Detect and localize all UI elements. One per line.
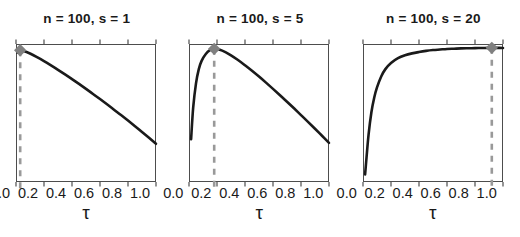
plot-frame (190, 45, 329, 182)
panel-title: n = 100, s = 5 (173, 11, 346, 26)
x-tick-label: 1.0 (477, 185, 497, 201)
x-tick-label: 0.8 (102, 185, 122, 201)
plot-frame (363, 45, 502, 182)
chart-panel: n = 100, s = 1 0.00.20.40.60.81.0 τ (0, 0, 173, 237)
plot-svg (189, 44, 329, 182)
x-tick-label: 0.0 (0, 185, 10, 201)
x-tick-label: 0.0 (163, 185, 183, 201)
plot-area (363, 44, 503, 182)
x-tick-label: 1.0 (303, 185, 323, 201)
x-tick-label: 0.6 (247, 185, 267, 201)
x-axis-label: τ (0, 203, 172, 222)
x-tick-labels: 0.00.20.40.60.81.0 (163, 185, 323, 205)
x-tick-label: 0.4 (393, 185, 413, 201)
x-axis-label: τ (347, 203, 519, 222)
data-curve (365, 48, 503, 175)
chart-panel: n = 100, s = 5 0.00.20.40.60.81.0 τ (173, 0, 346, 237)
x-tick-label: 0.4 (46, 185, 66, 201)
plot-frame (17, 45, 156, 182)
panel-title: n = 100, s = 20 (347, 11, 520, 26)
data-curve (191, 49, 329, 143)
x-tick-label: 0.0 (337, 185, 357, 201)
plot-area (16, 44, 156, 182)
x-tick-label: 0.2 (365, 185, 385, 201)
x-tick-labels: 0.00.20.40.60.81.0 (0, 185, 150, 205)
x-tick-label: 0.4 (219, 185, 239, 201)
panel-title: n = 100, s = 1 (0, 11, 173, 26)
x-tick-label: 1.0 (130, 185, 150, 201)
x-tick-label: 0.6 (421, 185, 441, 201)
plot-svg (363, 44, 503, 182)
x-tick-label: 0.2 (18, 185, 38, 201)
figure-panel-grid: n = 100, s = 1 0.00.20.40.60.81.0 τ n = … (0, 0, 520, 237)
x-tick-label: 0.8 (449, 185, 469, 201)
x-tick-label: 0.2 (191, 185, 211, 201)
data-curve (17, 50, 156, 144)
x-tick-label: 0.8 (275, 185, 295, 201)
x-axis-label: τ (173, 203, 345, 222)
x-tick-labels: 0.00.20.40.60.81.0 (337, 185, 497, 205)
chart-panel: n = 100, s = 20 0.00.20.40.60.81.0 τ (347, 0, 520, 237)
optimum-marker (485, 42, 497, 54)
plot-svg (16, 44, 156, 182)
plot-area (189, 44, 329, 182)
x-tick-label: 0.6 (74, 185, 94, 201)
optimum-marker (14, 44, 26, 56)
